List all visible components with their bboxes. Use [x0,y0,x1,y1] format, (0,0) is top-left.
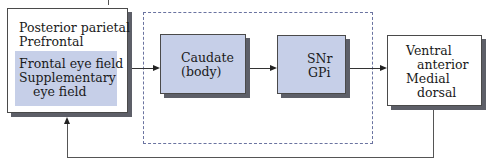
snr-gpi-box: SNr GPi [277,35,346,94]
caudate-sublabel: (body) [181,65,221,79]
label-supplementary: Supplementary [19,71,116,85]
thalamus-label-ventral: Ventral [406,44,452,58]
thalamus-box: Ventral anterior Medial dorsal [387,35,482,106]
feedback-line-horizontal [67,157,434,158]
caudate-box: Caudate (body) [160,34,246,94]
feedback-line-down [433,110,434,158]
gpi-label: GPi [308,66,330,80]
thalamus-label-anterior: anterior [417,58,468,72]
arrow-cortex-to-caudate-head [153,65,160,71]
cortex-label-prefrontal: Prefrontal [19,35,83,49]
arrow-snr-to-thalamus-head [380,65,387,71]
arrow-caudate-to-snr-line [250,68,270,69]
arrow-cortex-to-caudate-line [132,68,153,69]
caudate-label: Caudate [181,51,234,65]
arrow-snr-to-thalamus-line [350,68,380,69]
arrow-caudate-to-snr-head [270,65,277,71]
thalamus-label-dorsal: dorsal [417,86,456,100]
cortex-box: Posterior parietal Prefrontal Frontal ey… [7,8,128,113]
feedback-line-up [67,124,68,158]
snr-label: SNr [307,52,332,66]
cortex-label-posterior-parietal: Posterior parietal [19,21,130,35]
eye-field-highlight: Frontal eye field Supplementary eye fiel… [15,51,117,106]
label-frontal-eye-field: Frontal eye field [19,57,123,71]
feedback-arrow-head [64,117,70,124]
label-eye-field: eye field [33,85,87,99]
thalamus-label-medial: Medial [406,72,450,86]
top-connector-line [108,0,109,5]
